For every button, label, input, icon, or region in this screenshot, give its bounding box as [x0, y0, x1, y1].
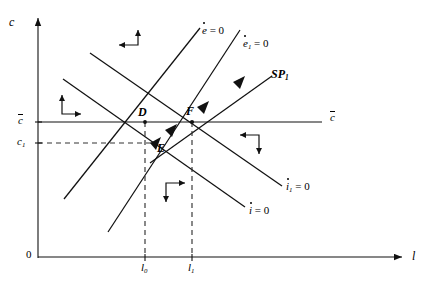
dashed-guides [38, 122, 192, 257]
arrow-down-glyph [256, 148, 262, 154]
arrow-left-glyph [240, 132, 246, 138]
y-tick-label-c-bar: c [18, 115, 23, 126]
axes [38, 18, 402, 258]
y-axis-label: c [9, 16, 14, 28]
sp1-arrowhead-inner [165, 124, 177, 137]
arrow-up-glyph [59, 95, 65, 101]
arrow-right-glyph [75, 111, 81, 117]
point-label-f: F [186, 105, 194, 117]
point-d-marker [143, 120, 147, 124]
curve-label-e1-dot-zero: e1 = 0 [243, 38, 269, 51]
e-dot-zero-line [64, 28, 200, 199]
phase-diagram-figure [0, 0, 443, 284]
arrow-down-glyph [163, 196, 169, 202]
arrow-left-glyph [119, 42, 125, 48]
c-bar-text: c [18, 114, 23, 126]
point-label-d: D [138, 106, 147, 118]
direction-indicator-left [59, 95, 81, 117]
arrow-up-glyph [135, 30, 141, 36]
curve-label-e-dot-zero: e = 0 [202, 25, 224, 36]
curve-label-sp1: SP1 [271, 68, 289, 81]
y-tick-label-c1: c1 [17, 136, 25, 149]
origin-label: 0 [26, 249, 32, 260]
arrow-right-glyph [179, 180, 185, 186]
curve-label-i1-dot-zero: i1 = 0 [286, 181, 310, 194]
sp1-arrowhead-mid [197, 101, 209, 114]
direction-indicator-upper-left [119, 30, 141, 48]
saddle-path-arrowheads [150, 76, 245, 150]
x-tick-label-l1: l1 [188, 262, 194, 275]
point-label-e: E [157, 142, 165, 154]
curve-label-c-bar-right: c [330, 112, 335, 123]
direction-indicator-lower-middle [163, 180, 185, 202]
x-axis-label: l [412, 250, 415, 262]
point-f-marker [190, 120, 194, 124]
curve-label-i-dot-zero: i = 0 [249, 205, 269, 216]
x-tick-label-l0: l0 [141, 262, 147, 275]
sp1-arrowhead-outer [233, 76, 245, 89]
direction-indicator-right [240, 132, 262, 154]
saddle-path-sp1-line [150, 76, 272, 163]
